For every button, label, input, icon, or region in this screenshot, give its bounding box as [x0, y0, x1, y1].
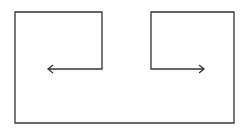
- diagram-canvas: [0, 0, 246, 135]
